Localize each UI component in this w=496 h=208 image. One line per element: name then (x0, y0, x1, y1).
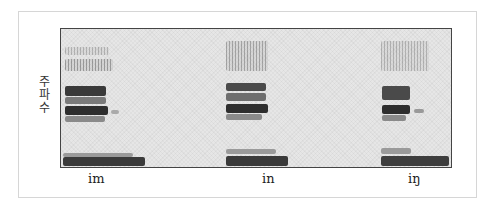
formant-band (226, 83, 266, 91)
formant-band (65, 86, 106, 96)
formant-band (65, 97, 106, 104)
formant-band (65, 106, 108, 115)
formant-band (382, 105, 410, 114)
spectrogram-plot (60, 28, 452, 168)
formant-band (382, 115, 406, 121)
low-frequency-bar (63, 157, 145, 166)
formant-band (226, 104, 268, 113)
low-frequency-bar (226, 156, 288, 166)
nasal-murmur (111, 110, 119, 114)
segment-label-in: in (262, 171, 275, 186)
high-frequency-striations (65, 47, 109, 55)
high-frequency-striations (381, 41, 429, 71)
formant-band (65, 116, 105, 122)
nasal-murmur (414, 109, 424, 113)
low-frequency-bar (381, 156, 449, 166)
formant-band (226, 93, 266, 101)
formant-band (226, 114, 262, 120)
segment-label-im: im (88, 171, 105, 186)
low-frequency-bar (381, 148, 411, 154)
formant-band (382, 86, 410, 100)
low-frequency-bar (63, 153, 133, 157)
y-axis-label: 주 파 수 (36, 76, 52, 115)
high-frequency-striations (65, 59, 113, 71)
low-frequency-bar (226, 149, 276, 154)
y-axis-label-char: 수 (36, 102, 52, 115)
segment-label-ing: iŋ (408, 171, 421, 186)
high-frequency-striations (226, 41, 268, 71)
